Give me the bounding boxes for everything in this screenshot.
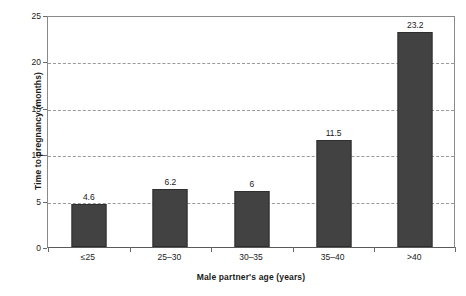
y-axis-tick-label: 20: [32, 57, 41, 67]
y-axis-tick-label: 25: [32, 11, 41, 21]
x-axis-tick: [455, 247, 456, 252]
x-axis-category-label: 35–40: [321, 252, 345, 262]
y-axis-tick-label: 5: [36, 197, 41, 207]
x-axis-category-label: 30–35: [239, 252, 263, 262]
bar-chart: Time to pregnancy (months) 0510152025 4.…: [0, 0, 466, 296]
x-tick-layer: [48, 17, 454, 247]
y-axis-tick-label: 15: [32, 104, 41, 114]
y-axis-tick-label: 0: [36, 243, 41, 253]
x-axis-labels: ≤2525–3030–3535–40>40: [47, 252, 455, 268]
y-axis-tick: [43, 248, 47, 249]
plot-area: 4.66.2611.523.2: [47, 16, 455, 248]
x-axis-title: Male partner's age (years): [47, 272, 455, 282]
x-axis-category-label: >40: [407, 252, 421, 262]
x-axis-category-label: ≤25: [81, 252, 95, 262]
y-axis-tick-label: 10: [32, 150, 41, 160]
x-axis-category-label: 25–30: [158, 252, 182, 262]
